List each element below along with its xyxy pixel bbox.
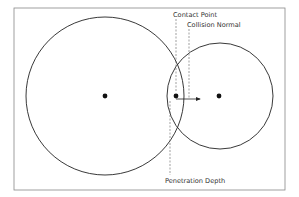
penetration-depth-label: Penetration Depth — [165, 177, 225, 185]
collision-diagram: Contact Point Collision Normal Penetrati… — [0, 0, 299, 197]
large-circle-center-dot — [103, 94, 108, 99]
collision-normal-label: Collision Normal — [187, 21, 241, 29]
diagram-svg: Contact Point Collision Normal Penetrati… — [0, 0, 299, 197]
contact-point-label: Contact Point — [173, 11, 218, 19]
small-circle-center-dot — [217, 94, 222, 99]
contact-point-dot — [174, 94, 179, 99]
